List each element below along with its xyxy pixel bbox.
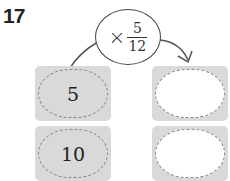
input-box-1: 5 — [35, 66, 111, 121]
answer-field-1[interactable] — [155, 69, 225, 118]
denominator: 12 — [128, 39, 146, 54]
answer-field-2[interactable] — [155, 129, 225, 178]
answer-box-1[interactable] — [152, 66, 228, 121]
multiplier-oval: × 5 12 — [95, 9, 161, 65]
input-box-2: 10 — [35, 126, 111, 181]
input-value-2: 10 — [38, 129, 108, 178]
answer-box-2[interactable] — [152, 126, 228, 181]
input-value-1: 5 — [38, 69, 108, 118]
times-symbol: × — [109, 25, 126, 49]
fraction: 5 12 — [127, 21, 147, 54]
numerator: 5 — [133, 21, 142, 36]
